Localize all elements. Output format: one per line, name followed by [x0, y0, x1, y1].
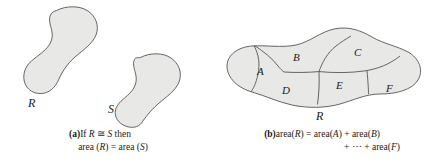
caption-a-l1-suffix: then	[112, 129, 131, 139]
shape-label-r: R	[28, 97, 35, 109]
caption-b-l1-c: ) + area(	[339, 129, 371, 139]
caption-a-l1-prefix: If	[80, 129, 89, 139]
region-label-c: C	[354, 47, 361, 58]
caption-a-l1-relation: ≅	[95, 129, 108, 139]
shape-label-s: S	[108, 103, 114, 115]
caption-b: (b)area(R) = area(A) + area(B) + ⋯ + are…	[216, 128, 432, 154]
caption-a-line-2: area (R) = area (S)	[0, 141, 216, 154]
caption-b-l2-b: )	[397, 142, 400, 152]
caption-b-l1-d: )	[377, 129, 380, 139]
panel-b-blob-stage	[216, 0, 432, 128]
caption-a-l2-left: area (	[78, 142, 99, 152]
caption-a: (a)If R ≅ S then area (R) = area (S)	[0, 128, 216, 154]
region-label-a: A	[257, 66, 264, 77]
region-label-e: E	[336, 80, 343, 91]
caption-b-l2-a: + ⋯ + area(	[344, 142, 391, 152]
caption-b-tag: (b)	[264, 129, 276, 139]
shape-label-r-subdivided: R	[316, 110, 323, 122]
caption-a-l2-mid: ) = area (	[105, 142, 140, 152]
figure-root: R S (a)If R ≅ S then area (R) = area (S)	[0, 0, 432, 164]
blob-s-shape	[115, 54, 180, 128]
caption-a-l2-right: )	[145, 142, 148, 152]
panel-a: R S (a)If R ≅ S then area (R) = area (S)	[0, 0, 216, 164]
caption-a-line-1: (a)If R ≅ S then	[0, 128, 216, 141]
caption-b-l1-b: ) = area(	[301, 129, 333, 139]
region-label-f: F	[386, 83, 393, 94]
caption-a-tag: (a)	[69, 129, 80, 139]
region-label-b: B	[293, 52, 300, 63]
blob-r-shape	[24, 7, 98, 94]
caption-b-line-1: (b)area(R) = area(A) + area(B)	[216, 128, 432, 141]
caption-b-line-2: + ⋯ + area(F)	[216, 141, 432, 154]
region-label-d: D	[282, 85, 290, 96]
panel-b: A B C D E F R (b)area(R) = area(A) + are…	[216, 0, 432, 164]
caption-b-l1-a: area(	[276, 129, 295, 139]
